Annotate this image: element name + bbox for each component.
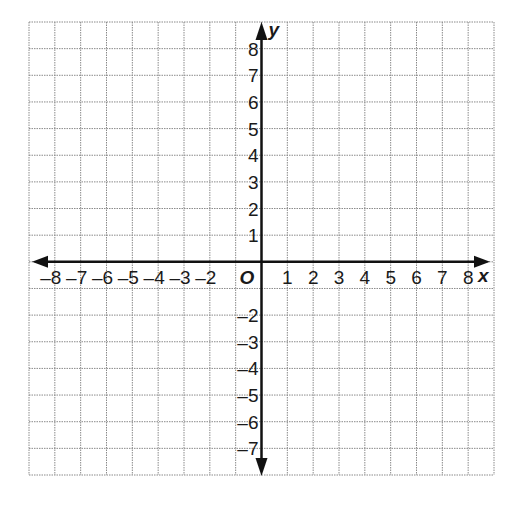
y-tick-label: 1 (248, 225, 259, 246)
x-tick-label: 2 (308, 267, 319, 288)
x-tick-label: –4 (144, 267, 166, 288)
x-tick-label: –7 (66, 267, 87, 288)
y-tick-labels: 87654321–2–3–4–5–6–7 (237, 39, 259, 460)
x-tick-labels: –8–7–6–5–4–3–212345678 (40, 267, 473, 288)
x-tick-label: –2 (195, 267, 216, 288)
origin-label: O (240, 267, 255, 288)
y-tick-label: 7 (248, 65, 259, 86)
y-tick-label: 6 (248, 92, 259, 113)
x-tick-label: 5 (385, 267, 396, 288)
axes (32, 22, 490, 476)
y-tick-label: 3 (248, 172, 259, 193)
x-tick-label: –8 (40, 267, 61, 288)
x-tick-label: –5 (118, 267, 139, 288)
x-tick-label: –6 (92, 267, 113, 288)
x-tick-label: 4 (360, 267, 371, 288)
x-tick-label: 7 (437, 267, 448, 288)
x-tick-label: –3 (169, 267, 190, 288)
y-axis-arrow-down-icon (256, 458, 268, 476)
y-axis-label: y (268, 19, 281, 40)
y-tick-label: –3 (237, 332, 258, 353)
y-tick-label: –7 (237, 438, 258, 459)
x-tick-label: 3 (334, 267, 345, 288)
y-tick-label: –2 (237, 305, 258, 326)
y-tick-label: –5 (237, 385, 258, 406)
y-tick-label: –4 (237, 358, 259, 379)
y-tick-label: –6 (237, 412, 258, 433)
y-tick-label: 2 (248, 199, 259, 220)
y-tick-label: 4 (248, 145, 259, 166)
y-tick-label: 5 (248, 119, 259, 140)
x-axis-label: x (477, 265, 490, 286)
y-tick-label: 8 (248, 39, 259, 60)
x-tick-label: 8 (463, 267, 474, 288)
coordinate-plane: –8–7–6–5–4–3–212345678 87654321–2–3–4–5–… (0, 0, 521, 512)
x-tick-label: 6 (411, 267, 422, 288)
x-tick-label: 1 (282, 267, 293, 288)
y-axis-arrow-up-icon (256, 22, 268, 40)
